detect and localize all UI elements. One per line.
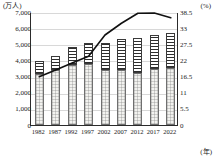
y2-axis-tick-label: 22	[180, 58, 210, 65]
y-axis-tick-label: 7,000	[5, 10, 31, 17]
y2-axis-tick-label: 0	[180, 123, 210, 130]
y2-axis-tick-label: 5.5	[180, 106, 210, 113]
ratio-line-series	[31, 13, 179, 126]
y-axis-tick-label: 4,000	[5, 58, 31, 65]
y-axis-tick-label: 6,000	[5, 26, 31, 33]
plot-area	[30, 13, 178, 126]
y2-axis-tick-label: 16.5	[180, 74, 210, 81]
y-axis-tick-label: 1,000	[5, 106, 31, 113]
x-axis-tick-label: 2022	[158, 128, 182, 135]
y2-axis-tick-label: 11	[180, 90, 210, 97]
chart-container: (万人) (%) (年) 01,0002,0003,0004,0005,0006…	[0, 0, 213, 156]
y-axis-tick-label: 2,000	[5, 90, 31, 97]
y-axis-tick-label: 3,000	[5, 74, 31, 81]
y-axis-tick-label: 5,000	[5, 42, 31, 49]
y2-axis-tick-label: 27.5	[180, 42, 210, 49]
y2-axis-tick-label: 33	[180, 26, 210, 33]
y2-axis-tick-label: 38.5	[180, 10, 210, 17]
x-axis-unit-label: (年)	[200, 148, 212, 156]
ratio-line-path	[39, 13, 171, 77]
